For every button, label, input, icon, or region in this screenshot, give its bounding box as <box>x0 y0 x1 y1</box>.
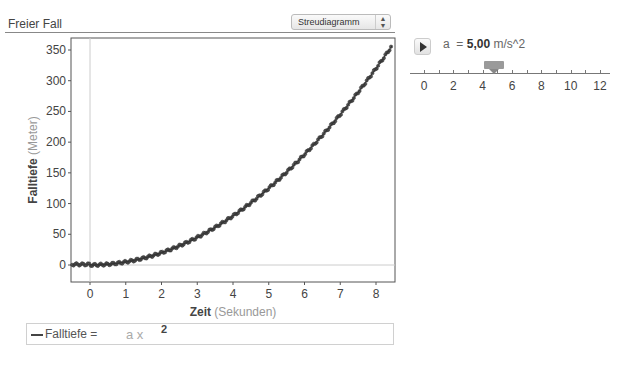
y-tick-label: 200 <box>46 135 66 149</box>
y-axis-label: Falltiefe (Meter) <box>26 116 40 203</box>
slider-tick <box>600 70 601 74</box>
legend-formula[interactable]: a x <box>126 327 143 342</box>
slider-tick <box>497 70 498 74</box>
slider-tick <box>424 70 425 74</box>
legend-exponent: 2 <box>161 323 167 335</box>
slider-tick <box>556 70 557 74</box>
slider-tick-label: 12 <box>590 79 610 93</box>
slider-tick-label: 4 <box>473 79 493 93</box>
parameter-label: a = 5,00 m/s^2 <box>443 37 525 51</box>
param-value: 5,00 <box>467 37 490 51</box>
slider-tick <box>571 70 572 74</box>
slider-tick-label: 8 <box>531 79 551 93</box>
slider-tick <box>483 70 484 74</box>
slider-tick <box>468 70 469 74</box>
legend-label: Falltiefe = <box>45 327 97 341</box>
param-unit: m/s^2 <box>493 37 525 51</box>
y-tick-label: 0 <box>59 258 66 272</box>
x-tick-label: 0 <box>87 287 94 301</box>
param-equals: = <box>456 37 463 51</box>
x-tick-label: 5 <box>265 287 272 301</box>
play-button[interactable] <box>414 38 431 55</box>
slider-track[interactable] <box>410 73 610 74</box>
x-tick-label: 7 <box>337 287 344 301</box>
y-tick-label: 150 <box>46 166 66 180</box>
plot-area <box>71 38 395 282</box>
slider-thumb[interactable] <box>484 61 504 69</box>
y-tick-label: 300 <box>46 74 66 88</box>
x-tick-label: 4 <box>230 287 237 301</box>
x-tick-label: 2 <box>158 287 165 301</box>
legend: Falltiefe = a x 2 <box>26 323 394 345</box>
slider-tick <box>541 70 542 74</box>
y-tick-label: 100 <box>46 197 66 211</box>
x-tick-label: 6 <box>301 287 308 301</box>
param-name: a <box>443 37 450 51</box>
slider-tick-label: 2 <box>443 79 463 93</box>
x-tick-label: 1 <box>122 287 129 301</box>
y-tick-label: 350 <box>46 43 66 57</box>
slider-tick <box>439 70 440 74</box>
slider-tick <box>527 70 528 74</box>
slider-tick <box>585 70 586 74</box>
slider-tick-label: 0 <box>414 79 434 93</box>
slider-tick-label: 10 <box>561 79 581 93</box>
x-tick-label: 8 <box>373 287 380 301</box>
slider-tick-label: 6 <box>502 79 522 93</box>
slider-tick <box>453 70 454 74</box>
scatter-chart: 050100150200250300350012345678Zeit (Seku… <box>0 0 630 368</box>
legend-line-swatch <box>31 334 43 336</box>
x-tick-label: 3 <box>194 287 201 301</box>
y-tick-label: 250 <box>46 104 66 118</box>
slider-tick <box>512 70 513 74</box>
x-axis-label: Zeit (Sekunden) <box>190 305 277 319</box>
y-tick-label: 50 <box>53 227 67 241</box>
play-icon <box>420 42 427 52</box>
